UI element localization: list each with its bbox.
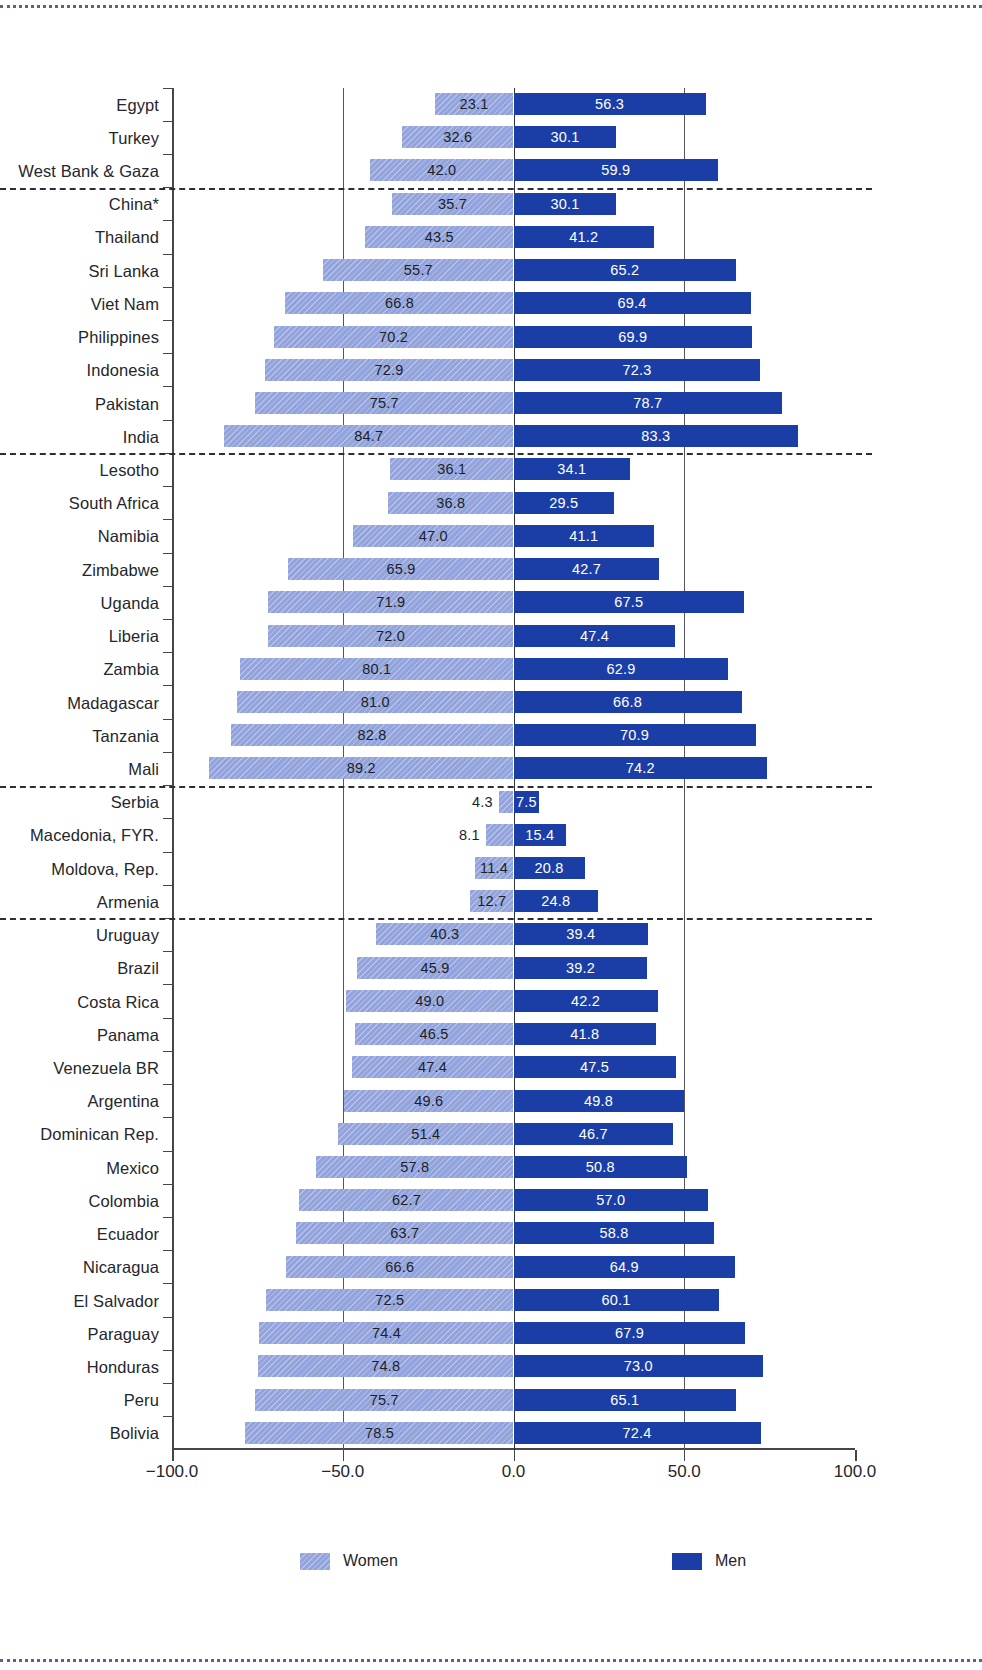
bar-row: El Salvador72.560.1 (172, 1284, 855, 1317)
x-axis-tick (172, 1450, 174, 1461)
group-separator (0, 786, 872, 788)
bar-women: 66.6 (286, 1256, 513, 1278)
bar-women: 74.4 (259, 1322, 513, 1344)
bar-row: Zimbabwe65.942.7 (172, 553, 855, 586)
bar-men: 7.5 (514, 791, 540, 813)
bar-row: Liberia72.047.4 (172, 620, 855, 653)
bar-value-men: 74.2 (626, 760, 655, 776)
bar-value-women: 47.0 (419, 528, 448, 544)
y-axis-tick (163, 220, 172, 221)
bar-row: Philippines70.269.9 (172, 321, 855, 354)
bar-women: 49.0 (346, 990, 513, 1012)
bar-value-women: 89.2 (347, 760, 376, 776)
bar-women: 8.1 (486, 824, 514, 846)
y-axis-tick (163, 121, 172, 122)
bar-women: 65.9 (288, 558, 513, 580)
bar-value-men: 47.5 (580, 1059, 609, 1075)
bar-men: 41.1 (514, 525, 654, 547)
category-label: Panama (97, 1025, 159, 1044)
bar-men: 42.7 (514, 558, 660, 580)
category-label: Thailand (95, 228, 159, 247)
y-axis-tick (163, 685, 172, 686)
bar-value-women: 36.1 (437, 461, 466, 477)
category-label: Uruguay (96, 926, 159, 945)
bar-men: 24.8 (514, 890, 599, 912)
bar-women: 57.8 (316, 1156, 513, 1178)
category-label: China* (109, 195, 159, 214)
plot-area: Egypt23.156.3Turkey32.630.1West Bank & G… (172, 88, 855, 1450)
bar-value-women: 70.2 (379, 329, 408, 345)
bar-value-women: 72.5 (375, 1292, 404, 1308)
bar-value-men: 58.8 (599, 1225, 628, 1241)
bar-value-women: 81.0 (361, 694, 390, 710)
bar-row: Paraguay74.467.9 (172, 1317, 855, 1350)
category-label: Mexico (106, 1158, 159, 1177)
bar-row: Brazil45.939.2 (172, 952, 855, 985)
category-label: Mali (128, 759, 159, 778)
bar-value-women: 8.1 (459, 827, 480, 843)
bar-row: West Bank & Gaza42.059.9 (172, 154, 855, 187)
category-label: Armenia (97, 892, 159, 911)
bar-value-men: 67.9 (615, 1325, 644, 1341)
bar-women: 72.0 (268, 625, 514, 647)
bar-value-men: 83.3 (641, 428, 670, 444)
category-label: Argentina (87, 1092, 159, 1111)
bar-men: 60.1 (514, 1289, 719, 1311)
category-label: Zimbabwe (82, 560, 159, 579)
bar-women: 81.0 (237, 691, 514, 713)
category-label: Brazil (117, 959, 159, 978)
bar-row: Egypt23.156.3 (172, 88, 855, 121)
chart-page: Egypt23.156.3Turkey32.630.1West Bank & G… (0, 0, 982, 1670)
bar-row: South Africa36.829.5 (172, 487, 855, 520)
category-label: South Africa (69, 494, 159, 513)
x-tick-labels: −100.0−50.00.050.0100.0 (172, 1462, 855, 1490)
bar-men: 47.4 (514, 625, 676, 647)
category-label: Zambia (103, 660, 159, 679)
bar-men: 73.0 (514, 1355, 763, 1377)
bar-women: 36.8 (388, 492, 514, 514)
y-axis-tick (163, 1018, 172, 1019)
bar-men: 83.3 (514, 425, 798, 447)
bar-value-men: 69.4 (617, 295, 646, 311)
category-label: Paraguay (88, 1324, 159, 1343)
bar-value-men: 42.2 (571, 993, 600, 1009)
category-label: Nicaragua (83, 1258, 159, 1277)
bar-women: 51.4 (338, 1123, 514, 1145)
category-label: Philippines (78, 328, 159, 347)
y-axis-tick (163, 1250, 172, 1251)
bar-men: 58.8 (514, 1222, 715, 1244)
group-separator (0, 453, 872, 455)
bar-women: 89.2 (209, 757, 514, 779)
bar-men: 34.1 (514, 458, 630, 480)
x-tick-label: 100.0 (834, 1462, 877, 1482)
category-label: Bolivia (110, 1424, 159, 1443)
x-axis-tick (514, 1450, 515, 1461)
y-axis-tick (163, 818, 172, 819)
y-axis-tick (163, 1317, 172, 1318)
bar-value-men: 66.8 (613, 694, 642, 710)
category-label: El Salvador (74, 1291, 159, 1310)
bar-women: 36.1 (390, 458, 513, 480)
bar-women: 4.3 (499, 791, 514, 813)
bar-women: 42.0 (370, 159, 513, 181)
category-label: Costa Rica (77, 992, 159, 1011)
bar-value-men: 56.3 (595, 96, 624, 112)
bar-men: 70.9 (514, 724, 756, 746)
bar-value-men: 72.3 (622, 362, 651, 378)
y-axis-tick (163, 885, 172, 886)
category-label: West Bank & Gaza (18, 162, 159, 181)
bar-men: 59.9 (514, 159, 719, 181)
bar-row: Costa Rica49.042.2 (172, 985, 855, 1018)
bar-row: Thailand43.541.2 (172, 221, 855, 254)
bar-men: 42.2 (514, 990, 658, 1012)
bar-women: 66.8 (285, 292, 513, 314)
bar-value-men: 78.7 (633, 395, 662, 411)
y-axis-tick (163, 1184, 172, 1185)
category-label: Sri Lanka (88, 261, 159, 280)
bar-value-women: 46.5 (420, 1026, 449, 1042)
bar-value-women: 72.0 (376, 628, 405, 644)
bar-value-men: 62.9 (606, 661, 635, 677)
y-axis-tick (163, 154, 172, 155)
bar-value-women: 36.8 (436, 495, 465, 511)
bar-value-women: 66.8 (385, 295, 414, 311)
